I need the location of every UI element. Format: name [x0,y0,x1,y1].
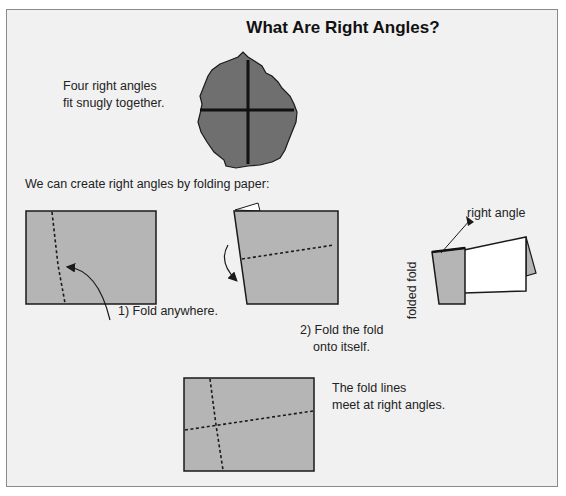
result-paper-icon [184,378,314,471]
torn-paper-blob-icon [198,52,297,168]
step-1-paper-icon [26,211,156,320]
step-2-paper-icon [224,203,338,304]
step-3-folded-fold-icon [432,216,536,304]
illustrations [0,0,566,496]
